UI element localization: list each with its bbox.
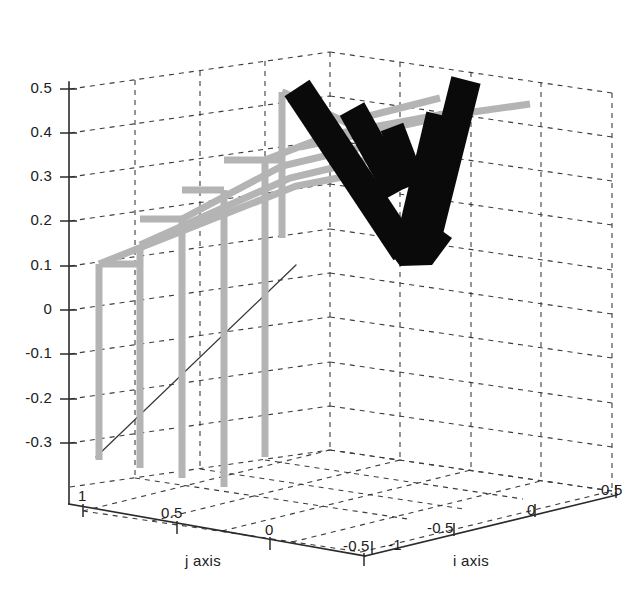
z-tick-label-5: 0	[4, 300, 52, 317]
j-tick-label-2: 0	[265, 521, 274, 538]
i-tick-label-0: -1	[388, 536, 402, 553]
plot-3d-axes	[0, 0, 640, 589]
figure-canvas: 0.5 0.4 0.3 0.2 0.1 0 -0.1 -0.2 -0.3 1 0…	[0, 0, 640, 589]
z-tick-label-4: 0.1	[4, 256, 52, 273]
i-tick-label-3: 0.5	[601, 481, 622, 498]
z-tick-label-2: 0.3	[4, 167, 52, 184]
z-tick-label-3: 0.2	[4, 211, 52, 228]
j-tick-label-1: 0.5	[161, 504, 182, 521]
z-tick-label-7: -0.2	[4, 389, 52, 406]
z-tick-label-6: -0.1	[4, 344, 52, 361]
j-tick-label-0: 1	[78, 487, 87, 504]
j-tick-label-3: -0.5	[343, 537, 370, 554]
z-tick-label-1: 0.4	[4, 123, 52, 140]
i-tick-label-1: -0.5	[427, 519, 454, 536]
j-axis-title: j axis	[185, 552, 221, 569]
j-axis-line	[69, 504, 365, 556]
i-tick-label-2: 0	[527, 501, 536, 518]
series-gray-stems	[99, 92, 530, 487]
z-tick-label-8: -0.3	[4, 433, 52, 450]
i-axis-title: i axis	[453, 552, 489, 569]
i-axis-ticks	[372, 485, 616, 554]
z-tick-label-0: 0.5	[4, 79, 52, 96]
i-axis-line	[365, 495, 617, 556]
